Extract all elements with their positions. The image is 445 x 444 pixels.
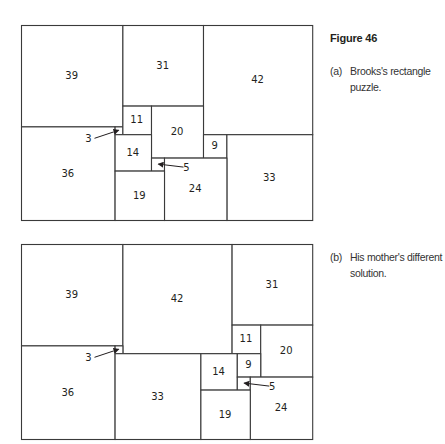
squared-rectangle-b: 39423136331120149241935 xyxy=(21,244,313,441)
square-20: 20 xyxy=(261,325,313,377)
square-label: 39 xyxy=(65,289,78,300)
callout-label: 3 xyxy=(85,352,91,363)
square-42: 42 xyxy=(204,26,313,135)
square-label: 36 xyxy=(61,168,74,179)
square-19: 19 xyxy=(115,171,164,220)
square-36: 36 xyxy=(22,127,116,221)
caption-b: (b) His mother's different solution. xyxy=(330,249,445,281)
square-label: 31 xyxy=(156,60,169,71)
square-label: 9 xyxy=(212,140,218,151)
square-label: 31 xyxy=(266,279,279,290)
square-20: 20 xyxy=(152,106,204,158)
square-label: 14 xyxy=(126,147,139,158)
caption-a-tag: (a) xyxy=(330,63,342,79)
square-39: 39 xyxy=(22,26,123,127)
square-label: 11 xyxy=(130,114,143,125)
square-label: 42 xyxy=(171,293,184,304)
square-label: 33 xyxy=(151,391,164,402)
square-14: 14 xyxy=(115,135,151,171)
square-9: 9 xyxy=(204,135,227,158)
square-label: 14 xyxy=(212,366,225,377)
square-36: 36 xyxy=(22,346,116,440)
square-label: 24 xyxy=(275,402,288,413)
square-19: 19 xyxy=(201,390,250,439)
square-label: 9 xyxy=(245,359,251,370)
caption-a-text: Brooks's rectangle puzzle. xyxy=(350,63,445,95)
square-24: 24 xyxy=(165,158,227,220)
caption-b-tag: (b) xyxy=(330,249,342,265)
square-24: 24 xyxy=(250,377,312,439)
square-33: 33 xyxy=(115,354,201,440)
square-label: 19 xyxy=(133,190,146,201)
square-11: 11 xyxy=(232,325,261,354)
square-label: 42 xyxy=(251,74,264,85)
figure-title: Figure 46 xyxy=(330,32,377,44)
caption-b-text: His mother's different solution. xyxy=(350,249,445,281)
callout-label: 5 xyxy=(269,381,275,392)
square-label: 24 xyxy=(189,183,202,194)
callout-label: 3 xyxy=(85,133,91,144)
square-label: 20 xyxy=(280,345,293,356)
caption-a: (a) Brooks's rectangle puzzle. xyxy=(330,63,445,95)
square-31: 31 xyxy=(232,245,313,326)
square-label: 36 xyxy=(61,387,74,398)
square-31: 31 xyxy=(123,26,204,107)
square-label: 19 xyxy=(219,409,232,420)
square-42: 42 xyxy=(123,245,232,354)
square-label: 39 xyxy=(65,70,78,81)
square-9: 9 xyxy=(237,354,260,377)
panel-a-diagram: 39314236112014933241935 xyxy=(21,25,313,222)
square-11: 11 xyxy=(123,106,152,135)
square-label: 20 xyxy=(171,126,184,137)
square-33: 33 xyxy=(227,135,313,221)
square-39: 39 xyxy=(22,245,123,346)
callout-label: 5 xyxy=(183,162,189,173)
panel-b-diagram: 39423136331120149241935 xyxy=(21,244,313,441)
squared-rectangle-a: 39314236112014933241935 xyxy=(21,25,313,222)
square-label: 33 xyxy=(263,172,276,183)
square-label: 11 xyxy=(240,333,253,344)
square-14: 14 xyxy=(201,354,237,390)
